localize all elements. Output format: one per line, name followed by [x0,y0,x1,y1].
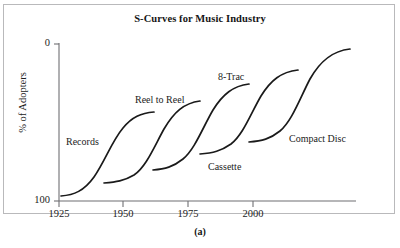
figure-panel: S-Curves for Music Industry % of Adopter… [3,4,395,214]
chart-plot-area [4,5,396,215]
x-tick-label-1925: 1925 [39,208,79,219]
x-tick-label-2000: 2000 [233,208,273,219]
curve-label-records: Records [66,136,99,147]
y-tick-label-100: 0 [20,37,50,48]
curve-label-reel-to-reel: Reel to Reel [135,94,184,105]
curve-label-compact-disc: Compact Disc [289,133,346,144]
curve-label-8-trac: 8-Trac [218,71,244,82]
y-tick-label-0: 100 [20,194,50,205]
x-tick-label-1975: 1975 [168,208,208,219]
curve-label-cassette: Cassette [208,161,241,172]
y-axis-label: % of Adopters [17,43,28,163]
curve-reel-to-reel [104,101,200,183]
x-tick-label-1950: 1950 [103,208,143,219]
curve-compact-disc [249,49,350,142]
figure-caption: (a) [0,226,400,237]
